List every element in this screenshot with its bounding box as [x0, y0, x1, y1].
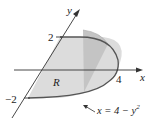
y-axis-arrow-icon — [73, 9, 80, 17]
curve-equation: x = 4 − y2 — [97, 104, 140, 116]
curve-equation-base: x = 4 − y — [97, 105, 136, 116]
curve-equation-exponent: 2 — [136, 103, 140, 111]
x-axis-label: x — [140, 72, 145, 83]
region-label: R — [53, 77, 60, 88]
y-axis-label: y — [67, 5, 72, 16]
region-r — [28, 37, 122, 98]
tick-label-y-2: 2 — [48, 32, 54, 43]
tick-label-y-neg2: −2 — [5, 94, 17, 105]
tick-label-x-4: 4 — [116, 74, 122, 85]
